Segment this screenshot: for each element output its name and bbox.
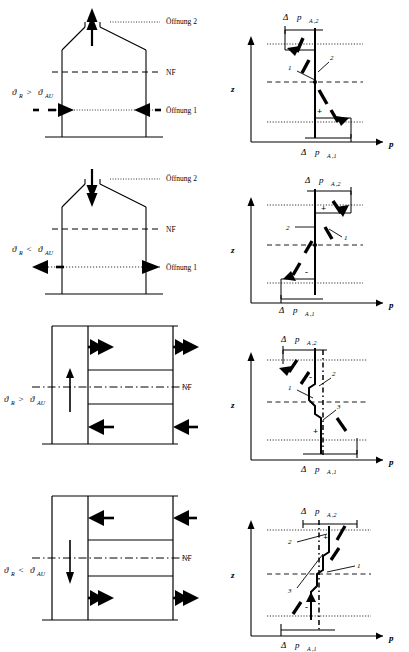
sign-upper-1: - <box>305 58 308 68</box>
label-neutral-plane-1: NF <box>166 68 176 77</box>
flow-arrow-top-left-3 <box>88 339 114 355</box>
sign-lower-2: - <box>305 267 308 277</box>
scenario-row-3: NF ϑ R > ϑ AU z p <box>0 314 409 474</box>
relation-2: < <box>26 244 32 254</box>
curve-label-2-4: 2 <box>288 538 292 546</box>
p-glyph-bottom-3: p <box>314 464 320 474</box>
label-opening-bottom-1: Öffnung 1 <box>166 106 197 115</box>
curve-label-2-3: 2 <box>332 370 336 378</box>
label-dp-a2-2: Δ p A ,2 <box>304 175 341 187</box>
curve-1-dashed-3 <box>289 360 346 431</box>
label-dp-a2-4: Δ p A ,2 <box>300 506 337 518</box>
flow-arrow-bottom-left-4 <box>88 590 114 606</box>
delta-p-a2-bracket-1 <box>285 26 323 50</box>
shaft-direction-arrow-up-3 <box>66 368 74 412</box>
delta-p-a1-bracket-4 <box>281 624 335 636</box>
p-glyph-top-3: p <box>294 334 300 344</box>
flow-arrow-outlet-right <box>142 260 160 274</box>
sub-a2-top-3: A ,2 <box>306 340 317 346</box>
p-glyph-bottom-4: p <box>294 640 300 650</box>
flow-arrow-top-right-3 <box>173 339 199 355</box>
neutral-point-1 <box>313 80 317 84</box>
relation-3: > <box>18 394 24 404</box>
svg-text:ϑ: ϑ <box>4 394 9 404</box>
flow-arrow-roof-down <box>87 169 98 207</box>
label-opening-top-2: Öffnung 2 <box>166 174 197 183</box>
axis-label-p-2: p <box>388 300 394 310</box>
curve-label-2-leader-1 <box>318 62 329 72</box>
axis-label-z-1: z <box>230 84 235 94</box>
p-glyph-top-1: p <box>296 12 302 22</box>
axis-label-z-2: z <box>230 245 235 255</box>
sign-upper-4: + <box>323 532 328 542</box>
label-dp-a2-1: Δ p A ,2 <box>282 12 319 24</box>
axis-label-p-4: p <box>388 633 394 643</box>
shaft-direction-arrow-down-4 <box>66 540 74 584</box>
svg-text:ϑ: ϑ <box>12 87 17 97</box>
flow-arrow-bottom-right-3 <box>173 419 198 435</box>
roof-left-slope-2 <box>62 184 85 207</box>
flow-arrow-bottom-left-3 <box>88 419 114 435</box>
scenario-row-4: NF ϑ R < ϑ AU z p <box>0 474 409 652</box>
flow-arrow-bottom-right-4 <box>173 590 199 606</box>
sign-upper-3: - <box>309 372 312 382</box>
sub-room-3: R <box>10 400 15 406</box>
label-opening-top-1: Öffnung 2 <box>166 17 197 26</box>
temperature-condition-3: ϑ R > ϑ AU <box>4 394 46 406</box>
axis-label-z-4: z <box>230 570 235 580</box>
building-schematic-2: Öffnung 2 NF Öffnung 1 ϑ R < ϑ AU <box>0 157 205 314</box>
svg-text:ϑ: ϑ <box>30 394 35 404</box>
svg-text:ϑ: ϑ <box>38 87 43 97</box>
curve-label-1-3: 1 <box>288 384 292 392</box>
curve-label-1-leader-4 <box>327 566 355 572</box>
building-schematic-3: NF ϑ R > ϑ AU <box>0 314 205 474</box>
p-glyph-bottom-1: p <box>314 147 320 157</box>
neutral-point-2 <box>313 243 317 247</box>
relation-1: > <box>26 87 32 97</box>
label-neutral-plane-3: NF <box>182 383 192 392</box>
chart-axes-4 <box>248 520 384 640</box>
delta-p-a2-bracket-3 <box>283 346 327 364</box>
flow-arrow-outlet-left <box>32 260 64 274</box>
sub-outside-1: AU <box>44 93 54 99</box>
curve-label-2-2: 2 <box>286 224 290 232</box>
svg-text:ϑ: ϑ <box>12 244 17 254</box>
arrowhead-step-4 <box>306 592 316 602</box>
sub-a2-top-1: A ,2 <box>308 18 319 24</box>
sub-outside-4: AU <box>36 571 46 577</box>
sub-a1-bottom-4: A ,1 <box>306 646 317 652</box>
flow-arrow-inlet-left <box>33 103 74 117</box>
curve-label-1-4: 1 <box>357 562 361 570</box>
roof-left-slope <box>62 27 85 50</box>
sub-room-4: R <box>10 571 15 577</box>
curve-label-1-2: 1 <box>344 234 348 242</box>
temperature-condition-1: ϑ R > ϑ AU <box>12 87 54 99</box>
curve-label-1-leader-1 <box>297 71 315 80</box>
label-neutral-plane-4: NF <box>182 554 192 563</box>
label-neutral-plane-2: NF <box>166 225 176 234</box>
p-glyph-top-2: p <box>318 175 324 185</box>
curve-label-3-3: 3 <box>336 403 341 411</box>
roof-right-slope <box>100 27 146 50</box>
svg-text:Δ: Δ <box>280 334 286 344</box>
svg-text:Δ: Δ <box>300 147 306 157</box>
svg-text:Δ: Δ <box>300 464 306 474</box>
label-dp-a1-4: Δ p A ,1 <box>280 640 317 652</box>
building-schematic-4: NF ϑ R < ϑ AU <box>0 474 205 652</box>
building-schematic-1: Öffnung 2 NF Öffnung 1 ϑ R > ϑ AU <box>0 0 205 157</box>
curve-label-2-1: 2 <box>330 54 334 62</box>
pressure-diagram-1: z p <box>205 0 409 157</box>
sign-lower-4: - <box>305 602 308 612</box>
temperature-condition-4: ϑ R < ϑ AU <box>4 565 46 577</box>
sub-a2-top-4: A ,2 <box>326 512 337 518</box>
sign-upper-2: + <box>321 203 326 213</box>
curve-label-2-leader-3 <box>319 378 331 386</box>
svg-text:Δ: Δ <box>304 175 310 185</box>
pressure-diagram-2: z p <box>205 157 409 314</box>
flow-arrow-inlet-right <box>134 103 161 117</box>
flow-arrow-top-right-4 <box>173 510 197 526</box>
pressure-diagram-3: z p <box>205 314 409 474</box>
sub-room-1: R <box>18 93 23 99</box>
scenario-row-2: Öffnung 2 NF Öffnung 1 ϑ R < ϑ AU z p <box>0 157 409 314</box>
label-opening-bottom-2: Öffnung 1 <box>166 263 197 272</box>
